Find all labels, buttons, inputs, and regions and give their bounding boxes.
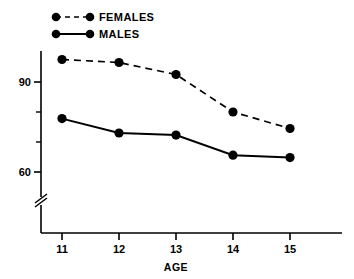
legend-marker-right-females: [86, 13, 95, 22]
data-point-males-15[interactable]: [285, 153, 294, 162]
data-point-females-12[interactable]: [114, 58, 123, 67]
series-males: [57, 114, 294, 162]
data-point-males-11[interactable]: [57, 114, 66, 123]
legend-label-males: MALES: [99, 28, 140, 40]
legend-item-males: MALES: [52, 28, 140, 40]
chart-figure: FEMALES MALES: [0, 0, 354, 279]
legend-label-females: FEMALES: [99, 11, 154, 23]
data-series-layer: [57, 55, 294, 162]
series-line-females: [62, 60, 290, 129]
x-tick-label-12: 12: [113, 243, 125, 255]
data-point-females-14[interactable]: [228, 107, 237, 116]
data-point-females-11[interactable]: [57, 55, 66, 64]
x-tick-label-11: 11: [56, 243, 68, 255]
chart-legend: FEMALES MALES: [52, 11, 155, 40]
data-point-males-13[interactable]: [171, 131, 180, 140]
data-point-females-15[interactable]: [285, 124, 294, 133]
data-point-males-12[interactable]: [114, 128, 123, 137]
data-point-males-14[interactable]: [228, 151, 237, 160]
x-tick-label-15: 15: [284, 243, 296, 255]
data-point-females-13[interactable]: [171, 70, 180, 79]
axis-lines: [41, 51, 342, 233]
y-tick-label-60: 60: [19, 166, 31, 178]
y-tick-label-90: 90: [19, 76, 31, 88]
x-axis-title: AGE: [164, 261, 188, 273]
x-tick-label-13: 13: [170, 243, 182, 255]
legend-item-females: FEMALES: [52, 11, 155, 23]
legend-marker-right-males: [86, 30, 95, 39]
x-tick-label-14: 14: [227, 243, 240, 255]
x-axis-ticks: [62, 233, 290, 240]
legend-marker-left-females: [52, 13, 61, 22]
legend-marker-left-males: [52, 30, 61, 39]
series-females: [57, 55, 294, 133]
y-axis-ticks: [34, 82, 41, 172]
line-chart-canvas: FEMALES MALES: [0, 0, 354, 279]
